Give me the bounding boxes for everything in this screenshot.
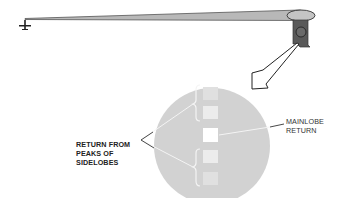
mainlobe-return — [203, 128, 218, 142]
aircraft-icon — [19, 20, 31, 30]
radar-beam — [25, 10, 315, 21]
sidelobe-return-inner-top — [203, 106, 218, 119]
ground-resolution-cell — [293, 20, 310, 47]
mainlobe-leader-outside — [270, 124, 284, 127]
diagram-canvas — [0, 0, 345, 198]
sidelobe-return-inner-bottom — [203, 150, 218, 163]
mainlobe-return-label: MAINLOBE RETURN — [286, 117, 324, 135]
sidelobe-return-outer-bottom — [203, 172, 218, 185]
sidelobe-return-outer-top — [203, 87, 218, 100]
sidelobe-return-label: RETURN FROM PEAKS OF SIDELOBES — [76, 140, 130, 167]
magnifier-arrow — [252, 43, 299, 89]
